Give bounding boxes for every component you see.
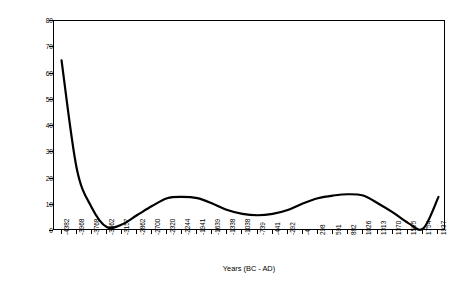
x-tick-label: -4: [304, 229, 311, 235]
x-tick-mark: [181, 230, 182, 234]
x-tick-mark: [347, 230, 348, 234]
x-tick-mark: [332, 230, 333, 234]
x-tick-label: 1937: [440, 221, 447, 235]
x-tick-mark: [196, 230, 197, 234]
x-tick-label: 882: [350, 224, 357, 235]
x-tick-label: -3968: [78, 219, 85, 235]
x-tick-mark: [302, 230, 303, 234]
x-tick-label: 1370: [395, 221, 402, 235]
x-tick-mark: [407, 230, 408, 234]
x-tick-mark: [272, 230, 273, 234]
x-tick-label: -441: [274, 222, 281, 235]
x-tick-label: -1639: [214, 219, 221, 235]
x-tick-mark: [136, 230, 137, 234]
pollen-series-line: [62, 60, 439, 229]
x-tick-label: 1754: [425, 221, 432, 235]
x-tick-label: -1038: [244, 219, 251, 235]
x-tick-mark: [76, 230, 77, 234]
x-tick-mark: [61, 230, 62, 234]
x-tick-mark: [151, 230, 152, 234]
x-tick-mark: [106, 230, 107, 234]
x-tick-label: -1338: [229, 219, 236, 235]
plot-area: [53, 20, 445, 230]
x-tick-mark: [121, 230, 122, 234]
x-tick-label: 1313: [380, 221, 387, 235]
x-tick-label: 298: [319, 224, 326, 235]
x-tick-mark: [377, 230, 378, 234]
x-tick-mark: [362, 230, 363, 234]
y-axis-title-text: Arboreal/Non-Arboreal Pollen %: [6, 0, 15, 26]
x-axis-title: Years (BC - AD): [53, 264, 445, 273]
plot-svg: [54, 21, 446, 231]
x-tick-label: -1941: [199, 219, 206, 235]
x-tick-label: -4382: [63, 219, 70, 235]
y-axis-title: Arboreal/Non-Arboreal Pollen %: [6, 0, 20, 26]
pollen-line-chart: Arboreal/Non-Arboreal Pollen % 010203040…: [0, 0, 461, 284]
x-tick-label: -3157: [123, 219, 130, 235]
x-tick-label: -3462: [108, 219, 115, 235]
x-tick-label: -2700: [154, 219, 161, 235]
x-tick-mark: [287, 230, 288, 234]
x-tick-mark: [241, 230, 242, 234]
x-tick-label: -739: [259, 222, 266, 235]
x-tick-label: 1595: [410, 221, 417, 235]
x-tick-mark: [392, 230, 393, 234]
x-tick-label: -3768: [93, 219, 100, 235]
x-tick-mark: [166, 230, 167, 234]
x-tick-label: -2244: [184, 219, 191, 235]
x-tick-mark: [211, 230, 212, 234]
x-tick-label: 591: [335, 224, 342, 235]
x-tick-mark: [437, 230, 438, 234]
x-tick-mark: [91, 230, 92, 234]
y-axis-ticks: 01020304050607080: [25, 14, 53, 238]
x-tick-mark: [317, 230, 318, 234]
x-axis-ticks-and-labels: -4382-3968-3768-3462-3157-2862-2700-2320…: [53, 230, 445, 284]
x-tick-mark: [226, 230, 227, 234]
x-tick-label: -2320: [169, 219, 176, 235]
x-tick-label: -2862: [139, 219, 146, 235]
x-tick-label: 1026: [365, 221, 372, 235]
x-tick-mark: [257, 230, 258, 234]
x-tick-mark: [422, 230, 423, 234]
x-tick-label: -292: [289, 222, 296, 235]
